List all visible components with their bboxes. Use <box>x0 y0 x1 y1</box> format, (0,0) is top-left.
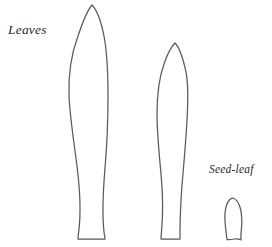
leaves-label: Leaves <box>8 23 47 37</box>
seed-leaf-label: Seed-leaf <box>209 164 254 176</box>
plate-background <box>0 0 272 247</box>
leaf-outlines-svg <box>0 0 272 247</box>
illustration-plate: Leaves Seed-leaf <box>0 0 272 247</box>
